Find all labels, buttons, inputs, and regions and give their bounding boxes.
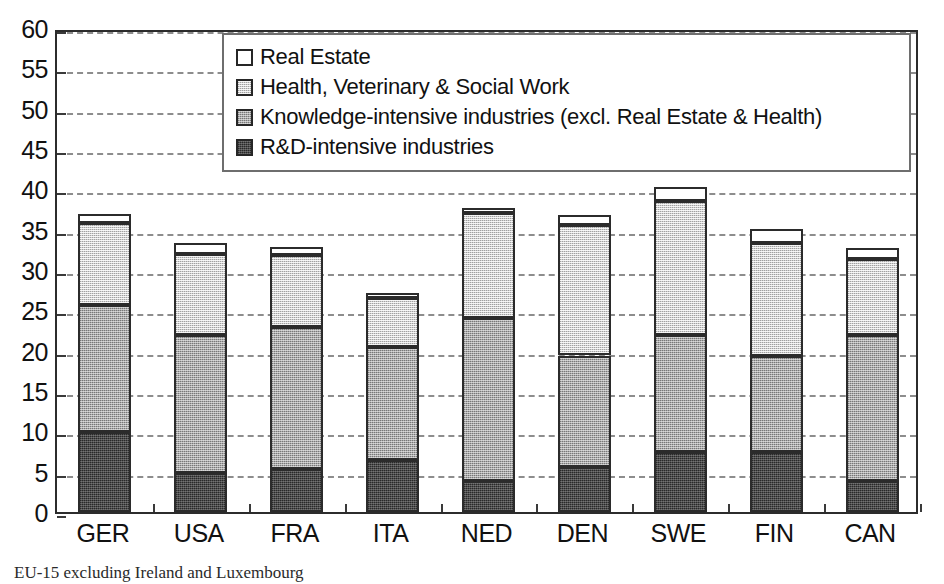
legend-swatch-icon	[236, 139, 253, 156]
bar-segment	[462, 208, 515, 213]
bar-segment	[78, 214, 131, 223]
legend-item-label: R&D-intensive industries	[260, 135, 494, 159]
bar-segment	[654, 201, 707, 335]
x-axis-tick-label: GER	[55, 518, 151, 548]
legend-item-label: Health, Veterinary & Social Work	[260, 75, 569, 99]
x-axis-tick-label: FRA	[247, 518, 343, 548]
y-axis-tick-label: 45	[0, 138, 48, 163]
x-axis-tick-mark	[920, 504, 922, 512]
bar-segment	[558, 215, 611, 225]
y-axis-tick-label: 30	[0, 259, 48, 284]
bar-segment	[174, 335, 227, 474]
legend-swatch-icon	[236, 79, 253, 96]
bar-segment	[462, 318, 515, 481]
bar-ger[interactable]	[78, 28, 131, 512]
legend-item-label: Knowledge-intensive industries (excl. Re…	[260, 105, 822, 129]
x-axis-tick-mark	[345, 504, 347, 512]
x-axis-tick-mark	[249, 504, 251, 512]
bar-segment	[654, 187, 707, 201]
y-axis-tick-mark	[57, 435, 66, 437]
y-axis-tick-label: 55	[0, 57, 48, 82]
y-axis-tick-label: 10	[0, 420, 48, 445]
stacked-bar	[78, 28, 131, 512]
bar-segment	[846, 481, 899, 512]
y-axis-tick-mark	[57, 193, 66, 195]
chart-figure: 605550454035302520151050 GERUSAFRAITANED…	[0, 0, 944, 584]
bar-segment	[270, 247, 323, 256]
legend-item[interactable]: R&D-intensive industries	[236, 132, 901, 162]
figure-caption: EU-15 excluding Ireland and Luxembourg	[14, 562, 304, 583]
y-axis-tick-mark	[57, 32, 66, 34]
legend-item[interactable]: Real Estate	[236, 42, 901, 72]
bar-segment	[270, 469, 323, 512]
y-axis-tick-mark	[57, 234, 66, 236]
legend-item[interactable]: Knowledge-intensive industries (excl. Re…	[236, 102, 901, 132]
x-axis-tick-mark	[632, 504, 634, 512]
y-axis: 605550454035302520151050	[0, 0, 48, 584]
bar-segment	[366, 293, 419, 298]
bar-segment	[78, 305, 131, 432]
y-axis-tick-mark	[57, 113, 66, 115]
x-axis-tick-label: DEN	[534, 518, 630, 548]
bar-segment	[462, 213, 515, 318]
legend-item-label: Real Estate	[260, 45, 370, 69]
bar-segment	[78, 223, 131, 305]
legend-swatch-icon	[236, 109, 253, 126]
y-axis-tick-mark	[57, 72, 66, 74]
y-axis-tick-mark	[57, 314, 66, 316]
bar-segment	[174, 243, 227, 253]
y-axis-tick-label: 50	[0, 98, 48, 123]
bar-segment	[78, 432, 131, 512]
x-axis-tick-mark	[824, 504, 826, 512]
bar-segment	[174, 473, 227, 512]
x-axis-tick-label: NED	[439, 518, 535, 548]
x-axis-tick-mark	[728, 504, 730, 512]
bar-segment	[654, 335, 707, 453]
y-axis-tick-label: 40	[0, 178, 48, 203]
y-axis-tick-mark	[57, 395, 66, 397]
y-axis-tick-label: 35	[0, 219, 48, 244]
x-axis-tick-label: CAN	[822, 518, 918, 548]
bar-segment	[750, 356, 803, 453]
x-axis-tick-label: FIN	[726, 518, 822, 548]
bar-segment	[462, 481, 515, 512]
legend-swatch-icon	[236, 49, 253, 66]
bar-segment	[174, 254, 227, 335]
bar-segment	[846, 259, 899, 336]
stacked-bar	[174, 28, 227, 512]
bar-segment	[270, 255, 323, 327]
x-axis-tick-label: USA	[151, 518, 247, 548]
bar-segment	[846, 248, 899, 258]
x-axis-tick-label: SWE	[630, 518, 726, 548]
bar-usa[interactable]	[174, 28, 227, 512]
x-axis-tick-mark	[536, 504, 538, 512]
y-axis-tick-mark	[57, 274, 66, 276]
chart-legend: Real EstateHealth, Veterinary & Social W…	[222, 33, 911, 172]
bar-segment	[654, 452, 707, 512]
bar-segment	[270, 327, 323, 469]
bar-segment	[558, 225, 611, 356]
y-axis-tick-label: 15	[0, 380, 48, 405]
bar-segment	[846, 335, 899, 481]
y-axis-tick-label: 60	[0, 17, 48, 42]
y-axis-tick-mark	[57, 476, 66, 478]
x-axis-tick-mark	[441, 504, 443, 512]
bar-segment	[366, 298, 419, 347]
bar-segment	[366, 347, 419, 460]
y-axis-tick-label: 0	[0, 501, 48, 526]
legend-item[interactable]: Health, Veterinary & Social Work	[236, 72, 901, 102]
bar-segment	[750, 452, 803, 512]
bar-segment	[750, 243, 803, 355]
y-axis-tick-mark	[57, 355, 66, 357]
bar-segment	[366, 460, 419, 512]
x-axis-tick-mark	[153, 504, 155, 512]
bar-segment	[558, 356, 611, 467]
y-axis-tick-mark	[57, 153, 66, 155]
bar-segment	[558, 467, 611, 512]
y-axis-tick-label: 25	[0, 299, 48, 324]
x-axis: GERUSAFRAITANEDDENSWEFINCAN	[55, 518, 918, 558]
y-axis-tick-label: 20	[0, 340, 48, 365]
bar-segment	[750, 229, 803, 244]
x-axis-tick-label: ITA	[343, 518, 439, 548]
y-axis-tick-label: 5	[0, 461, 48, 486]
